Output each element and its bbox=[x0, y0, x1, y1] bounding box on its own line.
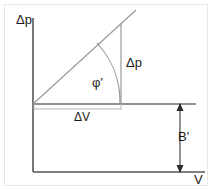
figure-border bbox=[5, 5, 208, 186]
figure-container: Δp V Δp ΔV φ' B' bbox=[0, 0, 212, 190]
y-axis-label: Δp bbox=[16, 13, 32, 26]
diagram-canvas bbox=[0, 0, 212, 190]
phi-angle-label: φ' bbox=[92, 76, 103, 89]
b-offset-label: B' bbox=[178, 130, 189, 143]
delta-v-label: ΔV bbox=[74, 111, 90, 123]
x-axis-label: V bbox=[194, 173, 203, 186]
delta-p-label: Δp bbox=[126, 56, 142, 69]
